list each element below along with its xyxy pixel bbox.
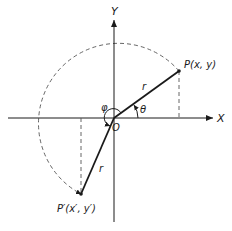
point-p-label: P(x, y)	[184, 59, 216, 70]
rotation-diagram: Y X O P(x, y) P′(x′, y′) r r θ φ	[0, 0, 232, 231]
x-axis-label: X	[216, 112, 225, 125]
rotation-arc	[38, 43, 179, 194]
theta-arc	[134, 105, 138, 118]
origin-label: O	[112, 122, 120, 133]
point-p-prime-label: P′(x′, y′)	[57, 203, 96, 214]
point-p-prime	[79, 192, 83, 196]
phi-label: φ	[101, 102, 108, 113]
theta-label: θ	[140, 104, 146, 115]
radius-label-p: r	[142, 81, 147, 92]
radius-label-p-prime: r	[99, 163, 104, 174]
radius-vector-p	[114, 71, 179, 118]
radius-vector-p-prime	[81, 118, 114, 194]
point-p	[177, 69, 181, 73]
y-axis-label: Y	[111, 5, 119, 18]
